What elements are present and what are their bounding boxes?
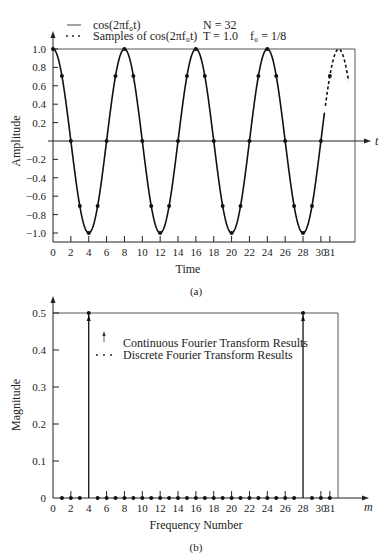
y-tick-label: −0.6: [26, 190, 46, 202]
sample-dot: [140, 139, 144, 143]
sample-dot: [256, 74, 260, 78]
figure: cos(2πf₀t) Samples of cos(2πf₀t) N = 32 …: [0, 0, 391, 559]
sample-dot: [239, 204, 243, 208]
x-tick-label: 0: [50, 502, 56, 514]
sample-dot: [96, 204, 100, 208]
y-tick-label: 1.0: [32, 43, 46, 55]
legend-dots-swatch: [66, 35, 80, 37]
sample-dot: [60, 74, 64, 78]
y-axis-arrow-icon: [51, 31, 56, 38]
sample-dot: [203, 74, 207, 78]
sample-dot: [283, 139, 287, 143]
param-f0: f₀ = 1/8: [250, 29, 286, 43]
x-tick-label: 18: [208, 502, 220, 514]
x-tick-label: 16: [190, 502, 202, 514]
x-tick-label: 6: [104, 246, 110, 258]
sample-dot: [319, 139, 323, 143]
m-axis-label: m: [364, 500, 373, 514]
dft-dot: [149, 496, 153, 500]
y-tick-label: 0.4: [32, 98, 46, 110]
dft-dot: [310, 496, 314, 500]
sample-dot: [78, 204, 82, 208]
frame-a: [53, 49, 355, 242]
dft-dot: [176, 496, 180, 500]
sample-dot: [265, 47, 269, 51]
dft-dot: [283, 496, 287, 500]
sample-dot: [114, 74, 118, 78]
x-tick-label: 20: [226, 502, 238, 514]
x-label-frequency-number: Frequency Number: [150, 518, 243, 532]
sample-dot: [69, 139, 73, 143]
dft-dot: [301, 311, 305, 315]
sample-dot: [212, 139, 216, 143]
y-tick-label: 0.8: [32, 61, 46, 73]
y-tick-label: −0.2: [26, 153, 46, 165]
sample-dot: [247, 139, 251, 143]
sample-dot: [131, 74, 135, 78]
sample-dot: [167, 204, 171, 208]
sample-dot: [51, 47, 55, 51]
sample-dot: [105, 139, 109, 143]
y-tick-label: 0.1: [32, 455, 46, 467]
x-tick-label: 16: [190, 246, 202, 258]
sample-dot: [301, 231, 305, 235]
x-tick-label: 14: [173, 246, 185, 258]
sample-dot: [122, 47, 126, 51]
sample-dot: [221, 204, 225, 208]
dft-dot: [256, 496, 260, 500]
param-t: T = 1.0: [203, 29, 238, 43]
dft-dot: [122, 496, 126, 500]
x-tick-label: 26: [280, 246, 292, 258]
dft-dot: [230, 496, 234, 500]
dft-dot: [158, 496, 162, 500]
sample-dot: [158, 231, 162, 235]
dft-dot: [265, 496, 269, 500]
dft-dot: [131, 496, 135, 500]
t-axis-arrow-icon: [364, 139, 371, 144]
x-tick-label: 4: [86, 502, 92, 514]
legend-b: Continuous Fourier Transform Results Dis…: [96, 331, 308, 362]
sample-dot: [194, 47, 198, 51]
sample-dot: [292, 204, 296, 208]
panel-a-time-domain: cos(2πf₀t) Samples of cos(2πf₀t) N = 32 …: [9, 18, 379, 298]
x-tick-label: 10: [137, 246, 149, 258]
sample-dot: [149, 204, 153, 208]
x-tick-label: 12: [155, 502, 166, 514]
dft-dot: [203, 496, 207, 500]
sample-dot: [230, 231, 234, 235]
y-tick-label: −0.4: [26, 172, 46, 184]
dft-dot: [105, 496, 109, 500]
x-tick-label: 26: [280, 502, 292, 514]
dft-dot: [114, 496, 118, 500]
impulse-arrow-icon: [301, 315, 305, 321]
legend-a: cos(2πf₀t) Samples of cos(2πf₀t) N = 32 …: [66, 18, 286, 43]
y-tick-label: 0: [41, 492, 47, 504]
dft-dot: [167, 496, 171, 500]
dft-dot: [69, 496, 73, 500]
panel-b-frequency-domain: m Continuous Fourier Transform Results D…: [9, 296, 373, 554]
y-axis-b-arrow-icon: [51, 296, 56, 303]
x-tick-label: 6: [104, 502, 110, 514]
x-tick-label: 2: [68, 246, 74, 258]
dft-dot: [96, 496, 100, 500]
y-tick-label: 0.6: [32, 80, 46, 92]
x-tick-label: 31: [324, 246, 335, 258]
dft-dot: [239, 496, 243, 500]
x-tick-label: 14: [173, 502, 185, 514]
dft-dot: [212, 496, 216, 500]
x-tick-label: 8: [122, 502, 128, 514]
y-tick-label: 0.4: [32, 344, 46, 356]
dft-dot: [274, 496, 278, 500]
y-tick-label: 0.3: [32, 381, 46, 393]
legend-label-dft: Discrete Fourier Transform Results: [123, 348, 293, 362]
legend-arrow-icon: [102, 331, 105, 336]
sample-dot: [185, 74, 189, 78]
legend-dots-swatch-b: [96, 354, 112, 356]
x-tick-label: 31: [324, 502, 335, 514]
x-tick-label: 10: [137, 502, 149, 514]
dft-dot: [292, 496, 296, 500]
x-tick-label: 8: [122, 246, 128, 258]
dft-dot: [319, 496, 323, 500]
dft-dot: [78, 496, 82, 500]
t-axis-label: t: [375, 134, 379, 148]
